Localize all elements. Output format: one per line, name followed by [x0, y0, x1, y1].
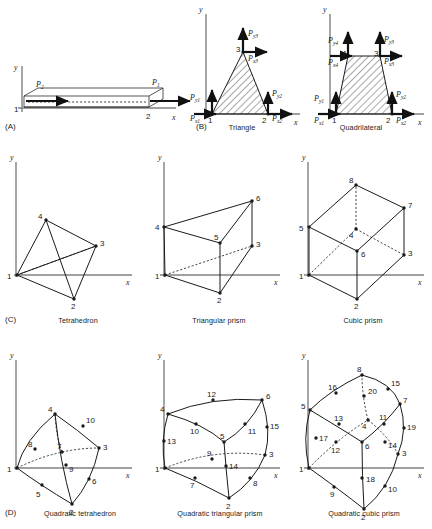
qcube-node-label-17: 17 — [319, 434, 328, 443]
figure-canvas: y x P2 P1 1 2 y x Py1 Px1 — [0, 0, 432, 529]
qcube-node-12 — [334, 440, 337, 443]
quad-node-label-4: 4 — [342, 49, 347, 58]
qcube-curve-4-8-hidden — [362, 375, 368, 420]
quad-force-py3-label: Py3 — [383, 35, 394, 45]
qtriprism-node-label-14: 14 — [229, 462, 238, 471]
qtriprism-node-10 — [194, 422, 197, 425]
element-quadrilateral: y x Py1 Px1 Py2 Px2 Py3 Px3 Py4 Px4 1 2 … — [313, 5, 424, 127]
row-tag-b: (B) — [196, 122, 207, 131]
triprism-node-label-5: 5 — [214, 233, 219, 242]
qtet-node-label-8: 8 — [28, 440, 33, 449]
triprism-node-label-3: 3 — [256, 240, 261, 249]
quad-x-axis-label: x — [417, 118, 422, 127]
triprism-node-label-4: 4 — [155, 223, 160, 232]
triangle-force-py3-label: Py3 — [247, 29, 258, 39]
cube-y-axis-label: y — [301, 153, 306, 162]
cube-node-label-4: 4 — [349, 231, 354, 240]
row-tag-a: (A) — [5, 122, 16, 131]
qtet-node-10 — [81, 424, 84, 427]
cube-node-6 — [355, 249, 358, 252]
qtriprism-node-3 — [263, 453, 266, 456]
qcube-node-label-4: 4 — [362, 422, 367, 431]
qcube-node-label-12: 12 — [331, 446, 340, 455]
qcube-node-17 — [314, 436, 317, 439]
tet-node-3 — [94, 244, 97, 247]
qtet-node-3 — [97, 446, 100, 449]
tet-face-123 — [17, 246, 96, 299]
element-triangle: y x Py1 Px1 Py2 Px2 Py3 Px3 1 2 3 — [189, 5, 300, 127]
qcube-node-15 — [386, 387, 389, 390]
qtriprism-node-13 — [162, 439, 165, 442]
qcube-y-axis-label: y — [301, 351, 306, 360]
qtet-curve-2-3 — [72, 448, 99, 504]
bar-force-label-1: P1 — [151, 78, 160, 88]
qtet-node-label-10: 10 — [86, 416, 95, 425]
qtriprism-node-label-7: 7 — [190, 481, 195, 490]
qtet-node-label-7: 7 — [57, 442, 62, 451]
qcube-node-label-18: 18 — [366, 475, 375, 484]
finite-element-figure: y x P2 P1 1 2 y x Py1 Px1 — [0, 0, 432, 529]
cube-node-label-5: 5 — [299, 224, 304, 233]
cube-edge-67 — [357, 208, 404, 251]
qtriprism-node-6 — [260, 398, 263, 401]
triprism-x-axis-label: x — [273, 278, 278, 287]
qcube-node-label-14: 14 — [388, 441, 397, 450]
qtriprism-node-11 — [243, 422, 246, 425]
cube-edge-23 — [357, 255, 404, 299]
cube-node-7 — [402, 206, 405, 209]
qtet-node-label-1: 1 — [7, 465, 12, 474]
triprism-node-5 — [218, 241, 221, 244]
qtet-node-label-6: 6 — [92, 477, 97, 486]
cube-edge-87 — [356, 185, 404, 208]
qcube-node-6 — [360, 440, 363, 443]
bar-node-label-1: 1 — [14, 105, 19, 114]
cube-node-3 — [402, 253, 405, 256]
triprism-node-4 — [162, 225, 165, 228]
qtriprism-node-label-4: 4 — [160, 405, 165, 414]
qcube-node-4 — [366, 418, 369, 421]
triangle-force-py1-label: Py1 — [189, 93, 200, 103]
quad-force-px4-label: Px4 — [327, 58, 338, 68]
qtriprism-curve-1-2 — [165, 468, 229, 498]
qcube-node-7 — [398, 402, 401, 405]
tet-x-axis-label: x — [125, 278, 130, 287]
triangle-force-py2-label: Py2 — [271, 89, 282, 99]
tet-node-label-3: 3 — [100, 239, 105, 248]
triprism-node-label-6: 6 — [256, 194, 261, 203]
qcube-node-14 — [383, 440, 386, 443]
qtet-node-9 — [64, 463, 67, 466]
qtet-node-label-3: 3 — [103, 443, 108, 452]
triangle-x-axis-label: x — [293, 118, 298, 127]
row-tag-d: (D) — [5, 508, 16, 517]
row-tag-c: (C) — [5, 315, 16, 324]
qtriprism-node-label-3: 3 — [269, 450, 274, 459]
qcube-node-label-20: 20 — [368, 387, 377, 396]
tet-face-134 — [17, 220, 96, 275]
quad-node-label-3: 3 — [374, 49, 379, 58]
qcube-node-label-5: 5 — [301, 402, 306, 411]
qcube-node-label-9: 9 — [330, 490, 335, 499]
qtriprism-node-15 — [265, 425, 268, 428]
qcube-node-10 — [383, 484, 386, 487]
qcube-curve-6-7 — [362, 404, 400, 442]
tet-node-1 — [15, 273, 18, 276]
quad-force-py1-label: Py1 — [313, 94, 324, 104]
qtriprism-node-label-9: 9 — [207, 449, 212, 458]
qtet-node-label-5: 5 — [36, 490, 41, 499]
caption-triangular-prism: Triangular prism — [164, 316, 274, 325]
triprism-y-axis-label: y — [157, 153, 162, 162]
caption-quadratic-triangular-prism: Quadratic triangular prism — [155, 509, 285, 518]
cube-node-label-6: 6 — [361, 250, 366, 259]
element-quadratic-cubic-prism: y x 1 2 3 4 5 — [299, 351, 424, 522]
qcube-node-3 — [396, 452, 399, 455]
tet-node-label-1: 1 — [7, 272, 12, 281]
qcube-node-1 — [307, 466, 310, 469]
triprism-top-face — [164, 201, 252, 243]
triangle-node-label-3: 3 — [236, 45, 241, 54]
caption-quadratic-cubic-prism: Quadratic cubic prism — [300, 509, 428, 518]
qcube-node-label-15: 15 — [391, 379, 400, 388]
qcube-curve-1-2 — [309, 468, 364, 509]
tet-node-label-2: 2 — [71, 302, 76, 311]
qcube-node-label-1: 1 — [299, 465, 304, 474]
triprism-node-2 — [218, 291, 221, 294]
